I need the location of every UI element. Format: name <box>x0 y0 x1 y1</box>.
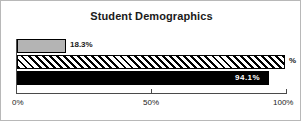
axis-tick-50 <box>151 89 152 94</box>
chart-figure: Student Demographics 18.3% % 94.1% 0% 50… <box>0 0 301 121</box>
bar-label-series-1: 18.3% <box>70 40 93 49</box>
axis-tick-label-50: 50% <box>143 98 159 107</box>
bar-label-series-2: % <box>289 56 296 65</box>
bar-label-series-3: 94.1% <box>235 73 260 82</box>
bar-row: % <box>17 55 287 69</box>
axis-tick-label-0: 0% <box>12 98 24 107</box>
bar-series-2[interactable] <box>17 55 285 69</box>
axis-tick-100 <box>286 89 287 94</box>
plot-area: 18.3% % 94.1% <box>16 39 287 89</box>
bar-row: 18.3% <box>17 39 287 53</box>
bar-series-3[interactable] <box>17 71 269 85</box>
bar-series-1[interactable] <box>17 39 66 53</box>
axis-tick-label-100: 100% <box>273 98 293 107</box>
chart-title: Student Demographics <box>1 10 301 22</box>
bar-row: 94.1% <box>17 71 287 85</box>
axis-tick-0 <box>16 89 17 94</box>
